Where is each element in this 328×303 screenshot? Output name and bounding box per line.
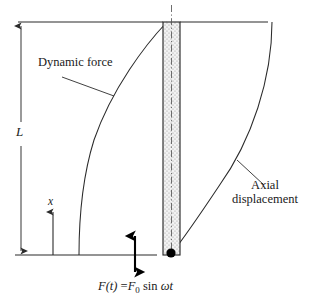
formula-argument: (t) xyxy=(106,279,118,293)
length-symbol-label: L xyxy=(16,125,23,140)
force-formula: F(t) =F0 sin ωt xyxy=(98,279,173,295)
axial-displacement-label: Axial displacement xyxy=(219,178,311,206)
formula-F: F xyxy=(98,279,106,293)
axial-displacement-curve xyxy=(172,22,272,253)
dynamic-force-label: Dynamic force xyxy=(38,55,113,69)
formula-equals: = xyxy=(117,279,127,293)
column-dynamics-diagram: Dynamic force Axial displacement L x F(t… xyxy=(0,0,328,303)
base-support-node xyxy=(166,248,175,257)
dynamic-force-leader-line xyxy=(62,77,114,96)
coordinate-symbol-label: x xyxy=(48,195,53,208)
diagram-canvas xyxy=(0,0,328,303)
formula-sin: sin xyxy=(140,279,161,293)
formula-time: t xyxy=(169,279,172,293)
